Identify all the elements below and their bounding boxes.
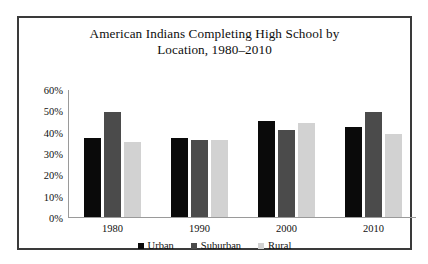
bar-group: 2010 [330, 90, 417, 217]
bar-group: 1990 [156, 90, 243, 217]
bar-rural-2000 [298, 123, 315, 217]
x-axis-line [68, 217, 416, 218]
bars-layer: 1980199020002010 [69, 90, 416, 217]
y-axis-tick-label: 60% [44, 85, 63, 96]
legend-label: Suburban [201, 240, 241, 251]
bar-suburban-1980 [104, 112, 121, 217]
bar-rural-1980 [124, 142, 141, 217]
y-axis-tick-label: 0% [49, 213, 63, 224]
bar-suburban-2000 [278, 130, 295, 217]
legend-label: Rural [268, 240, 291, 251]
bar-urban-1980 [84, 138, 101, 217]
bar-rural-1990 [211, 140, 228, 217]
legend-swatch-icon [191, 243, 197, 249]
y-axis-tick-label: 40% [44, 127, 63, 138]
x-axis-tick-label: 2000 [243, 223, 330, 234]
chart-title: American Indians Completing High School … [19, 26, 410, 58]
bar-urban-2010 [345, 127, 362, 217]
chart-title-line-1: American Indians Completing High School … [19, 26, 410, 42]
chart-title-line-2: Location, 1980–2010 [19, 42, 410, 58]
x-axis-tick-label: 1980 [69, 223, 156, 234]
x-axis-tick-label: 2010 [330, 223, 417, 234]
y-axis-tick-label: 20% [44, 170, 63, 181]
legend-item-suburban: Suburban [191, 240, 241, 251]
bar-urban-1990 [171, 138, 188, 217]
x-axis-tick-label: 1990 [156, 223, 243, 234]
legend-item-rural: Rural [258, 240, 291, 251]
bar-rural-2010 [385, 134, 402, 217]
bar-suburban-1990 [191, 140, 208, 217]
bar-group: 1980 [69, 90, 156, 217]
legend-swatch-icon [258, 243, 264, 249]
bar-suburban-2010 [365, 112, 382, 217]
legend-item-urban: Urban [138, 240, 174, 251]
chart-frame: American Indians Completing High School … [17, 16, 412, 250]
chart-legend: UrbanSuburbanRural [19, 240, 410, 251]
bar-group: 2000 [243, 90, 330, 217]
legend-label: Urban [148, 240, 174, 251]
bar-urban-2000 [258, 121, 275, 217]
plot-area: 0%10%20%30%40%50%60% 1980199020002010 [68, 90, 416, 218]
y-axis-tick-label: 50% [44, 106, 63, 117]
y-axis-tick-label: 30% [44, 149, 63, 160]
y-axis-tick-label: 10% [44, 191, 63, 202]
legend-swatch-icon [138, 243, 144, 249]
